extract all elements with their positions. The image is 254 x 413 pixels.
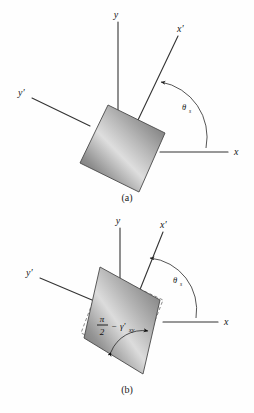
panel-a-y-prime-axis [32,98,90,126]
panel-b-caption: (b) [0,384,254,395]
panel-a-y-label: y [113,9,119,20]
panel-a-element-square [80,105,165,192]
figure-canvas: y x x′ y′ θ s y [0,0,254,413]
panel-b-y-prime-label: y′ [25,267,33,278]
panel-a-y-prime-label: y′ [17,87,25,98]
figure-root: y x x′ y′ θ s y [0,0,254,413]
panel-b-x-prime-label: x′ [159,219,167,230]
formula-operator: − [111,321,117,331]
panel-a-theta-arc [161,82,207,148]
panel-a-caption: (a) [0,192,254,203]
panel-b-theta-symbol: θ [173,275,177,285]
panel-a-x-prime-axis [138,36,178,120]
panel-a-theta-subscript: s [189,108,191,114]
formula-numerator: π [100,314,105,324]
panel-a: y x x′ y′ θ s [17,9,239,192]
panel-b-theta-subscript: s [180,281,182,287]
panel-a-x-label: x [233,146,239,157]
panel-b: y x x′ y′ θ s π 2 − γ′ xy [25,215,229,374]
formula-strain-subscript: xy [128,327,135,333]
panel-b-x-prime-axis [139,232,163,292]
panel-a-theta-symbol: θ [182,102,186,112]
formula-denominator: 2 [100,327,105,337]
panel-b-y-label: y [115,215,121,226]
panel-b-x-label: x [223,316,229,327]
panel-b-y-prime-axis [40,278,92,300]
panel-a-x-prime-label: x′ [176,23,184,34]
